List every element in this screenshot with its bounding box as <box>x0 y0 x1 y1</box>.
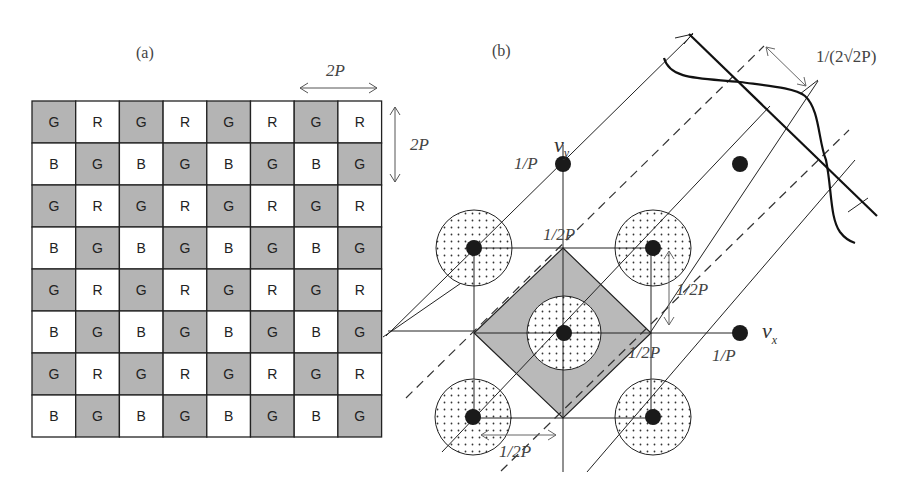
panel-b-label: (b) <box>492 42 511 60</box>
bayer-cell-g: G <box>251 311 295 353</box>
bayer-cell-g: G <box>207 185 251 227</box>
bayer-cell-label: G <box>136 198 147 214</box>
bayer-cell-g: G <box>32 269 76 311</box>
bayer-cell-g: G <box>163 227 207 269</box>
vertical-dim-label: 2P <box>410 135 429 154</box>
bayer-cell-g: G <box>294 269 338 311</box>
bayer-cell-label: R <box>267 198 277 214</box>
bayer-cell-r: R <box>251 185 295 227</box>
half-p-top-label: 1/2P <box>543 225 575 244</box>
bayer-cell-b: B <box>294 143 338 185</box>
bayer-cell-r: R <box>76 353 120 395</box>
bayer-cell-g: G <box>338 227 382 269</box>
bayer-cell-g: G <box>294 101 338 143</box>
bayer-cell-b: B <box>294 227 338 269</box>
bayer-cell-g: G <box>338 395 382 437</box>
spacing-arrow <box>766 47 806 86</box>
bayer-cell-g: G <box>119 353 163 395</box>
bayer-cell-label: R <box>180 282 190 298</box>
bayer-cell-g: G <box>338 311 382 353</box>
bayer-cell-b: B <box>119 227 163 269</box>
bayer-cell-r: R <box>338 353 382 395</box>
bayer-cell-g: G <box>207 269 251 311</box>
bayer-cell-label: G <box>354 324 365 340</box>
bayer-cell-g: G <box>76 395 120 437</box>
bayer-cell-g: G <box>163 395 207 437</box>
bayer-cell-label: G <box>354 240 365 256</box>
half-p-bottom-label: 1/2P <box>499 442 531 461</box>
bayer-cell-g: G <box>207 353 251 395</box>
panel-b: (b) <box>386 33 877 472</box>
bayer-cell-b: B <box>294 311 338 353</box>
sample-dot-x <box>732 325 748 341</box>
bayer-cell-label: G <box>223 198 234 214</box>
bayer-cell-g: G <box>294 353 338 395</box>
bayer-cell-label: R <box>92 198 102 214</box>
bayer-cell-label: R <box>180 366 190 382</box>
bayer-cell-label: G <box>136 366 147 382</box>
bayer-cell-label: R <box>92 282 102 298</box>
bayer-cell-label: G <box>48 114 59 130</box>
bayer-cell-label: B <box>49 324 58 340</box>
bayer-cell-b: B <box>207 311 251 353</box>
bayer-cell-label: G <box>223 366 234 382</box>
bayer-cell-b: B <box>119 395 163 437</box>
bayer-cell-label: G <box>92 156 103 172</box>
bayer-cell-r: R <box>76 185 120 227</box>
bayer-cell-label: G <box>267 408 278 424</box>
bayer-cell-g: G <box>251 143 295 185</box>
bayer-cell-label: G <box>180 240 191 256</box>
bayer-cell-label: G <box>267 240 278 256</box>
bayer-cell-b: B <box>207 143 251 185</box>
bayer-cell-label: G <box>354 408 365 424</box>
sample-dot <box>645 240 661 256</box>
bayer-cell-g: G <box>119 185 163 227</box>
bayer-cell-b: B <box>119 143 163 185</box>
bayer-cell-label: R <box>180 198 190 214</box>
spacing-label: 1/(2√2P) <box>816 47 876 66</box>
bayer-cell-b: B <box>32 227 76 269</box>
bayer-cell-b: B <box>32 395 76 437</box>
sample-dot <box>466 240 482 256</box>
bayer-cell-label: R <box>355 366 365 382</box>
bayer-cell-r: R <box>251 269 295 311</box>
bayer-cell-label: B <box>137 156 146 172</box>
bayer-cell-label: G <box>48 198 59 214</box>
panel-a: (a) GRGRGRGRBGBGBGBGGRGRGRGRBGBGBGBGGRGR… <box>32 44 429 437</box>
bayer-cell-label: B <box>224 240 233 256</box>
bayer-cell-label: G <box>311 198 322 214</box>
bayer-cell-b: B <box>32 143 76 185</box>
bayer-cell-label: B <box>224 408 233 424</box>
bayer-cell-g: G <box>338 143 382 185</box>
bayer-cell-label: R <box>267 366 277 382</box>
bayer-cell-label: B <box>311 156 320 172</box>
bayer-cell-label: G <box>92 240 103 256</box>
bayer-cell-b: B <box>119 311 163 353</box>
bayer-cell-label: B <box>311 324 320 340</box>
bayer-cell-b: B <box>32 311 76 353</box>
bayer-cell-b: B <box>207 227 251 269</box>
bayer-cell-label: R <box>92 114 102 130</box>
half-p-right-label: 1/2P <box>676 280 708 299</box>
bayer-cell-b: B <box>207 395 251 437</box>
bayer-cell-label: R <box>355 282 365 298</box>
bayer-cell-r: R <box>76 101 120 143</box>
sample-dot-diag <box>732 156 748 172</box>
bayer-cell-g: G <box>207 101 251 143</box>
bayer-cell-label: G <box>92 408 103 424</box>
bayer-cell-label: B <box>311 240 320 256</box>
bayer-cell-r: R <box>338 185 382 227</box>
bayer-cell-b: B <box>294 395 338 437</box>
bayer-cell-label: G <box>48 282 59 298</box>
bayer-cell-r: R <box>163 101 207 143</box>
half-p-diag-label: 1/2P <box>628 343 660 362</box>
bayer-cell-g: G <box>76 227 120 269</box>
bayer-cell-g: G <box>294 185 338 227</box>
one-over-p-x-label: 1/P <box>712 346 736 365</box>
bayer-cell-label: G <box>223 282 234 298</box>
sample-dot <box>465 409 481 425</box>
response-curve <box>664 58 855 243</box>
figure-canvas: (a) GRGRGRGRBGBGBGBGGRGRGRGRBGBGBGBGGRGR… <box>0 0 917 489</box>
bayer-cell-g: G <box>76 311 120 353</box>
bayer-cell-label: G <box>311 366 322 382</box>
